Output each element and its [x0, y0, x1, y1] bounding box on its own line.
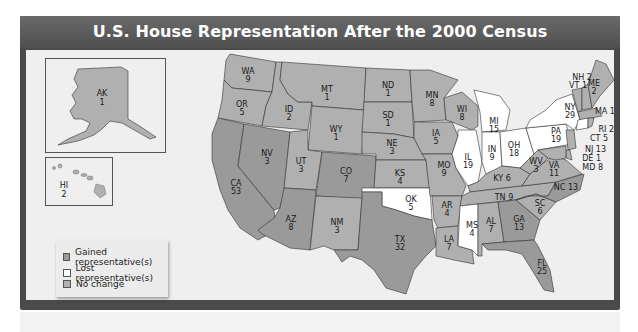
label-NC: NC 13 — [554, 183, 578, 192]
label-VA: VA11 — [549, 161, 560, 178]
label-VT: VT 1 — [569, 81, 587, 90]
legend-item-no-change: No change — [63, 279, 124, 289]
gained-swatch — [63, 253, 70, 261]
label-MD: MD 8 — [582, 163, 603, 172]
label-OH: OH18 — [508, 141, 520, 158]
legend-label-no-change: No change — [76, 279, 124, 289]
lost-swatch — [63, 269, 71, 277]
label-CA: CA53 — [230, 179, 242, 196]
label-TN: TN 9 — [494, 193, 514, 202]
legend: Gained representative(s) Lost representa… — [56, 240, 168, 297]
label-CT: CT 5 — [590, 134, 608, 143]
label-FL: FL25 — [537, 259, 547, 276]
state-RI[interactable] — [588, 118, 594, 128]
label-TX: TX32 — [394, 235, 406, 252]
state-CT[interactable] — [576, 118, 588, 130]
label-KY: KY 6 — [493, 174, 510, 183]
title-bar: U.S. House Representation After the 2000… — [20, 16, 620, 48]
label-RI: RI 2 — [598, 125, 614, 134]
label-DE: DE 1 — [582, 154, 601, 163]
label-MI: MI15 — [489, 117, 499, 134]
state-NJ[interactable] — [566, 130, 576, 150]
label-GA: GA13 — [513, 215, 525, 232]
label-NJ: NJ 13 — [585, 145, 606, 154]
label-NY: NY29 — [565, 103, 576, 120]
map-title: U.S. House Representation After the 2000… — [20, 22, 620, 41]
bottom-strip — [20, 312, 620, 332]
no-change-swatch — [63, 280, 71, 288]
state-DE[interactable] — [566, 150, 572, 160]
label-MA: MA 10 — [595, 107, 614, 116]
label-PA: PA19 — [551, 127, 562, 144]
